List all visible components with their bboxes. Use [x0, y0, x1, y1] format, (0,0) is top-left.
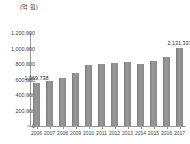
x-axis-tick-mark: [63, 126, 64, 129]
y-axis-tick-mark: [27, 33, 31, 34]
y-axis-tick-mark: [27, 126, 31, 127]
x-axis-tick-mark: [115, 126, 116, 129]
x-axis-tick-mark: [37, 126, 38, 129]
bar: [85, 65, 92, 126]
x-axis-tick-label: 2009: [70, 130, 81, 136]
y-axis-tick-mark: [27, 95, 31, 96]
y-axis-tick-mark: [27, 110, 31, 111]
bar: [59, 78, 66, 126]
x-axis-tick-label: 2015: [148, 130, 159, 136]
x-axis-tick-label: 2010: [83, 130, 94, 136]
bar: [176, 48, 183, 126]
x-axis-tick-label: 2017: [174, 130, 185, 136]
bar: [124, 62, 131, 126]
x-axis-tick-mark: [89, 126, 90, 129]
x-axis-tick-mark: [154, 126, 155, 129]
x-axis-tick-mark: [50, 126, 51, 129]
bar: [111, 63, 118, 126]
y-axis-tick-label: 1,200,000: [11, 30, 35, 36]
x-axis-tick-label: 2007: [44, 130, 55, 136]
y-axis-unit-label: (억 원): [20, 2, 38, 11]
y-axis-tick-label: 1,000,000: [11, 46, 35, 52]
data-point-label: 2,131,337: [168, 40, 190, 46]
x-axis-tick-label: 2006: [31, 130, 42, 136]
data-point-label: 1,069,738: [25, 75, 49, 81]
x-axis-tick-mark: [180, 126, 181, 129]
bar: [98, 64, 105, 126]
bar: [33, 83, 40, 126]
x-axis-tick-mark: [102, 126, 103, 129]
bar: [137, 64, 144, 126]
x-axis-tick-label: 2013: [122, 130, 133, 136]
x-axis-tick-label: 2014: [135, 130, 146, 136]
x-axis-tick-mark: [76, 126, 77, 129]
bar: [72, 73, 79, 126]
x-axis-line: [30, 126, 186, 127]
y-axis-tick-mark: [27, 48, 31, 49]
bar: [163, 57, 170, 126]
y-axis-tick-mark: [27, 64, 31, 65]
bar: [46, 81, 53, 126]
bar-chart: (억 원) 1,200,0001,000,000800,000600,00040…: [0, 0, 190, 144]
x-axis-tick-label: 2008: [57, 130, 68, 136]
x-axis-tick-label: 2012: [109, 130, 120, 136]
x-axis-tick-mark: [167, 126, 168, 129]
x-axis-tick-mark: [128, 126, 129, 129]
x-axis-tick-mark: [141, 126, 142, 129]
y-axis-tick-label: 800,000: [16, 61, 36, 67]
x-axis-tick-label: 2011: [96, 130, 107, 136]
bar: [150, 61, 157, 126]
x-axis-tick-label: 2016: [161, 130, 172, 136]
